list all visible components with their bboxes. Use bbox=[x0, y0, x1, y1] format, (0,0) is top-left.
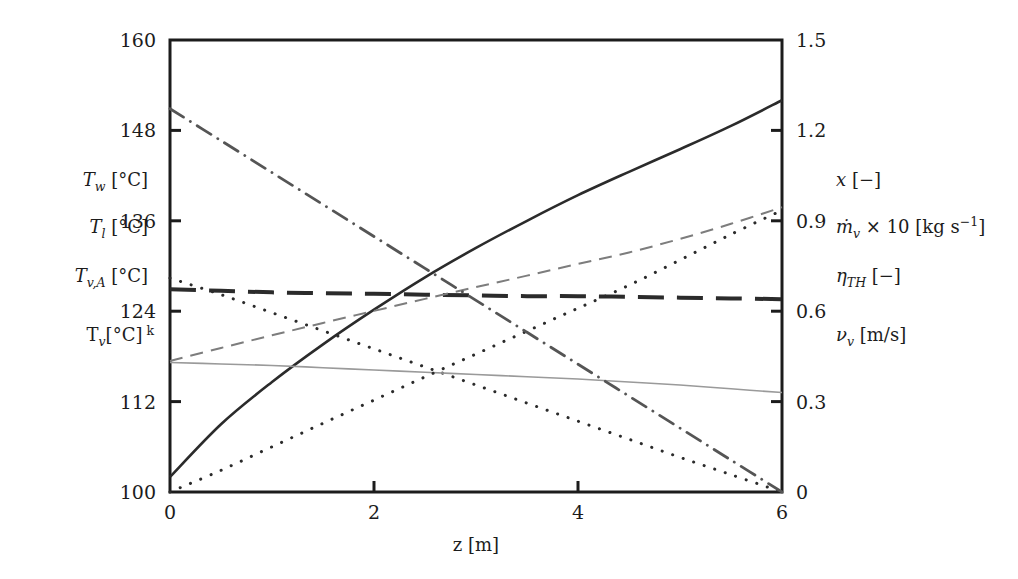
x-tick-label: 2 bbox=[368, 501, 380, 523]
y-left-tick-label: 124 bbox=[120, 300, 156, 322]
y-left-tick-label: 100 bbox=[120, 481, 156, 503]
y-right-tick-label: 1.2 bbox=[796, 119, 826, 141]
figure-container: 100112124136148160 00.30.60.91.21.5 0246… bbox=[0, 0, 1018, 579]
y-right-tick-label: 1.5 bbox=[796, 29, 826, 51]
y-left-tick-label: 112 bbox=[120, 391, 156, 413]
series-label-x: x [−] bbox=[836, 169, 881, 190]
y-left-tick-label: 160 bbox=[120, 29, 156, 51]
y-right-tick-label: 0.3 bbox=[796, 391, 826, 413]
x-axis-title: z [m] bbox=[453, 534, 499, 555]
x-tick-label: 4 bbox=[572, 501, 584, 523]
y-right-tick-label: 0 bbox=[796, 481, 808, 503]
x-tick-label: 6 bbox=[776, 501, 788, 523]
chart-svg: 100112124136148160 00.30.60.91.21.5 0246… bbox=[0, 0, 1018, 579]
y-right-tick-label: 0.9 bbox=[796, 210, 826, 232]
y-left-tick-label: 148 bbox=[120, 119, 156, 141]
y-right-tick-label: 0.6 bbox=[796, 300, 826, 322]
x-tick-label: 0 bbox=[164, 501, 176, 523]
